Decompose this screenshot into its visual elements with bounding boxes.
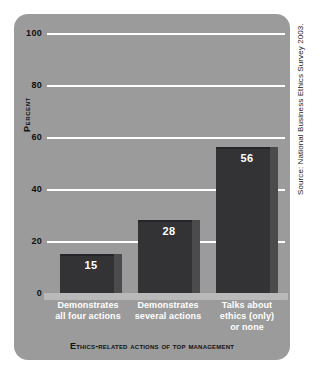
bar-series: 15 28 56 xyxy=(47,33,285,293)
category-label-line: ethics (only) xyxy=(204,311,290,322)
y-tick-label-0: 0 xyxy=(37,288,42,298)
category-label-0: Demonstrates all four actions xyxy=(45,300,131,322)
category-label-line: several actions xyxy=(125,311,211,322)
y-tick-label-60: 60 xyxy=(31,132,42,142)
y-tick-label-20: 20 xyxy=(31,236,42,246)
category-label-line: or none xyxy=(204,322,290,333)
bar-rect-1: 28 xyxy=(138,220,200,293)
x-axis-title: Ethics-related actions of top management xyxy=(14,341,290,351)
category-label-line: Demonstrates xyxy=(125,300,211,311)
category-label-2: Talks about ethics (only) or none xyxy=(204,300,290,333)
bar-value-label: 15 xyxy=(60,259,122,271)
y-tick-label-80: 80 xyxy=(31,80,42,90)
bar-side-shade xyxy=(270,147,278,293)
plot-area: 100 80 60 40 20 0 15 xyxy=(47,33,285,293)
source-note: Source: National Business Ethics Survey … xyxy=(296,23,305,195)
bar-item[interactable]: 56 xyxy=(216,147,278,293)
bar-item[interactable]: 28 xyxy=(138,220,200,293)
category-label-line: Talks about xyxy=(204,300,290,311)
category-label-1: Demonstrates several actions xyxy=(125,300,211,322)
bar-top-edge xyxy=(60,254,122,256)
y-tick-label-40: 40 xyxy=(31,184,42,194)
bar-rect-0: 15 xyxy=(60,254,122,293)
bar-top-edge xyxy=(138,220,200,222)
category-label-line: all four actions xyxy=(45,311,131,322)
bar-value-label: 28 xyxy=(138,225,200,237)
bar-value-label: 56 xyxy=(216,152,278,164)
category-label-line: Demonstrates xyxy=(45,300,131,311)
bar-item[interactable]: 15 xyxy=(60,254,122,293)
y-axis-title: Percent xyxy=(22,118,32,132)
bar-rect-2: 56 xyxy=(216,147,278,293)
bar-top-edge xyxy=(216,147,278,149)
y-tick-label-100: 100 xyxy=(26,28,42,38)
chart-figure: Percent 100 80 60 40 20 0 15 xyxy=(0,0,322,379)
x-axis-categories: Demonstrates all four actions Demonstrat… xyxy=(47,300,285,340)
axis-baseline xyxy=(44,293,288,300)
